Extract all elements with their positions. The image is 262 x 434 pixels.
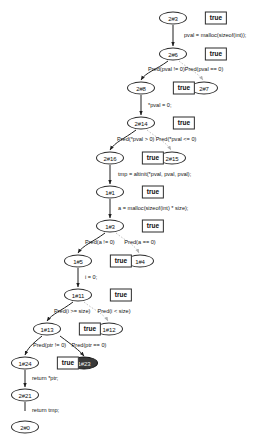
edge-label: Pred(pval != 0) <box>148 67 185 73</box>
path-condition-badge[interactable]: true <box>110 255 132 268</box>
path-condition-badge[interactable]: true <box>79 323 101 336</box>
edge-label: Pred(a == 0) <box>124 240 155 246</box>
tree-node-2-8[interactable]: 2#8 <box>127 82 155 95</box>
edge-label: return tmp; <box>32 408 59 414</box>
tree-node-1-24[interactable]: 1#24 <box>11 357 39 370</box>
path-condition-badge[interactable]: true <box>110 289 132 302</box>
tree-node-1-11[interactable]: 1#11 <box>64 289 92 302</box>
edge-label: Pred(a != 0) <box>85 240 115 246</box>
tree-node-2-6[interactable]: 2#6 <box>159 48 187 61</box>
path-condition-badge[interactable]: true <box>205 48 227 61</box>
path-condition-badge[interactable]: true <box>142 186 164 199</box>
tree-node-2-16[interactable]: 2#16 <box>96 152 124 165</box>
edge-label: return *ptr; <box>32 376 58 382</box>
tree-node-2-3[interactable]: 2#3 <box>159 12 187 25</box>
edge-label: a = malloc(sizeof(int) * size); <box>118 206 188 212</box>
tree-node-2-21[interactable]: 2#21 <box>11 389 39 402</box>
edge-label: Pred(*pval > 0) <box>117 137 154 143</box>
tree-node-1-3[interactable]: 1#3 <box>96 220 124 233</box>
path-condition-badge[interactable]: true <box>142 220 164 233</box>
tree-node-1-1[interactable]: 1#1 <box>96 186 124 199</box>
edge-label: i = 0; <box>85 275 97 281</box>
edge-label: pval = malloc(sizeof(int)); <box>184 33 246 39</box>
path-condition-badge[interactable]: true <box>205 12 227 25</box>
path-condition-badge[interactable]: true <box>173 117 195 130</box>
edge-label: Pred(ptr != 0) <box>33 343 66 349</box>
edge-label: Pred(*pval <= 0) <box>156 137 197 143</box>
edge-label: Pred(i >= size) <box>54 309 90 315</box>
edge-label: Pred(ptr == 0) <box>72 343 107 349</box>
edge-label: Pred(i < size) <box>97 309 130 315</box>
edge-label: tmp = altinit(*pval, pval, pval); <box>118 172 191 178</box>
edge-label: Pred(pval == 0) <box>185 67 224 73</box>
path-condition-badge[interactable]: true <box>142 152 164 165</box>
tree-node-1-5[interactable]: 1#5 <box>64 255 92 268</box>
tree-node-1-13[interactable]: 1#13 <box>33 323 61 336</box>
tree-node-2-0[interactable]: 2#0 <box>11 421 39 434</box>
path-condition-badge[interactable]: true <box>57 357 79 370</box>
tree-node-2-14[interactable]: 2#14 <box>127 117 155 130</box>
edge-label: *pval = 0; <box>148 103 171 109</box>
path-condition-badge[interactable]: true <box>173 82 195 95</box>
